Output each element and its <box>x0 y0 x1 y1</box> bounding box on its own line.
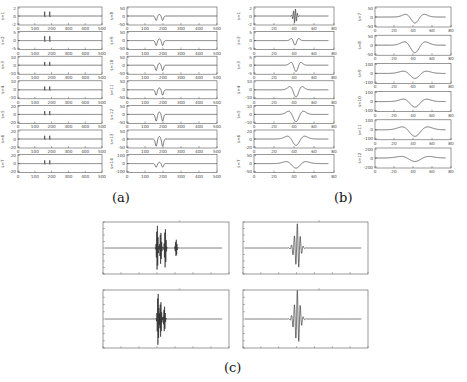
svg-text:0: 0 <box>249 87 252 92</box>
svg-text:100: 100 <box>31 149 39 154</box>
svg-text:0: 0 <box>370 15 373 20</box>
svg-text:200: 200 <box>159 100 167 105</box>
svg-text:5: 5 <box>249 55 252 60</box>
svg-text:0: 0 <box>17 174 20 179</box>
svg-text:100: 100 <box>141 26 149 31</box>
svg-text:100: 100 <box>31 75 39 80</box>
svg-text:0: 0 <box>253 174 256 179</box>
svg-text:40: 40 <box>291 174 297 179</box>
svg-text:0: 0 <box>370 99 373 104</box>
svg-text:s=9: s=9 <box>109 36 114 45</box>
svg-text:300: 300 <box>177 75 185 80</box>
svg-text:400: 400 <box>81 51 89 56</box>
svg-text:500: 500 <box>213 26 221 31</box>
svg-text:40: 40 <box>410 56 416 61</box>
svg-text:20: 20 <box>271 124 277 129</box>
svg-text:40: 40 <box>291 149 297 154</box>
subplot-s-7: 500-50s=7020406080 <box>236 153 337 178</box>
svg-text:-5: -5 <box>12 46 17 51</box>
svg-text:s=3: s=3 <box>236 61 241 70</box>
svg-text:-50: -50 <box>118 120 125 125</box>
svg-text:0: 0 <box>249 14 252 19</box>
svg-text:-50: -50 <box>366 52 373 57</box>
subplot-s-11: 1000-100s=11020406080 <box>357 118 454 145</box>
subplot-s-7: 200-20s=70100200300400500 <box>0 153 106 178</box>
svg-text:20: 20 <box>11 153 17 158</box>
svg-text:-100: -100 <box>115 169 125 174</box>
svg-text:20: 20 <box>391 169 397 174</box>
svg-text:20: 20 <box>391 113 397 118</box>
svg-text:s=3: s=3 <box>0 61 5 70</box>
svg-text:0: 0 <box>122 87 125 92</box>
svg-text:0: 0 <box>13 87 16 92</box>
svg-text:200: 200 <box>48 26 56 31</box>
svg-text:100: 100 <box>365 62 373 67</box>
subplot-s-6: 200-20s=60100200300400500 <box>0 129 106 154</box>
svg-text:400: 400 <box>81 75 89 80</box>
svg-text:0: 0 <box>249 38 252 43</box>
svg-text:500: 500 <box>98 75 106 80</box>
svg-text:300: 300 <box>64 100 72 105</box>
svg-text:60: 60 <box>311 174 317 179</box>
svg-text:300: 300 <box>177 51 185 56</box>
svg-text:s=6: s=6 <box>0 134 5 143</box>
svg-text:0: 0 <box>249 63 252 68</box>
svg-text:400: 400 <box>195 149 203 154</box>
svg-text:200: 200 <box>159 174 167 179</box>
svg-text:40: 40 <box>410 169 416 174</box>
svg-text:100: 100 <box>141 75 149 80</box>
svg-text:0: 0 <box>122 14 125 19</box>
svg-text:80: 80 <box>448 113 454 118</box>
svg-text:300: 300 <box>64 75 72 80</box>
svg-text:0: 0 <box>122 112 125 117</box>
svg-text:50: 50 <box>120 30 126 35</box>
svg-text:50: 50 <box>120 79 126 84</box>
svg-text:400: 400 <box>195 26 203 31</box>
svg-text:100: 100 <box>365 118 373 123</box>
svg-text:0: 0 <box>13 38 16 43</box>
svg-text:40: 40 <box>410 141 416 146</box>
svg-text:0: 0 <box>253 51 256 56</box>
svg-text:500: 500 <box>98 100 106 105</box>
svg-text:300: 300 <box>177 124 185 129</box>
svg-text:10: 10 <box>11 79 17 84</box>
svg-text:400: 400 <box>81 26 89 31</box>
svg-text:s=8: s=8 <box>109 11 114 20</box>
svg-text:200: 200 <box>48 51 56 56</box>
svg-text:20: 20 <box>391 141 397 146</box>
svg-text:200: 200 <box>159 26 167 31</box>
svg-text:500: 500 <box>98 124 106 129</box>
svg-text:100: 100 <box>31 174 39 179</box>
svg-text:s=7: s=7 <box>236 159 241 168</box>
svg-text:50: 50 <box>368 34 374 39</box>
svg-text:400: 400 <box>195 75 203 80</box>
svg-text:0: 0 <box>13 137 16 142</box>
svg-text:0: 0 <box>253 75 256 80</box>
subplot-s-5: 200-20s=50100200300400500 <box>0 104 106 129</box>
svg-text:200: 200 <box>48 174 56 179</box>
svg-text:0: 0 <box>370 71 373 76</box>
svg-text:-5: -5 <box>248 46 253 51</box>
svg-text:0: 0 <box>253 100 256 105</box>
svg-text:0: 0 <box>249 161 252 166</box>
svg-text:80: 80 <box>331 75 337 80</box>
svg-text:80: 80 <box>331 174 337 179</box>
svg-text:s=7: s=7 <box>357 12 362 21</box>
svg-text:200: 200 <box>48 75 56 80</box>
svg-text:20: 20 <box>271 149 277 154</box>
svg-text:300: 300 <box>177 174 185 179</box>
svg-text:500: 500 <box>213 75 221 80</box>
svg-text:400: 400 <box>81 124 89 129</box>
svg-text:60: 60 <box>311 75 317 80</box>
svg-text:500: 500 <box>213 174 221 179</box>
svg-text:0: 0 <box>122 38 125 43</box>
caption-b: (b) <box>334 190 352 205</box>
svg-text:300: 300 <box>177 100 185 105</box>
svg-text:500: 500 <box>213 149 221 154</box>
svg-text:-10: -10 <box>245 95 252 100</box>
svg-text:100: 100 <box>141 174 149 179</box>
svg-text:0: 0 <box>126 51 129 56</box>
svg-text:60: 60 <box>429 141 435 146</box>
svg-text:-10: -10 <box>245 120 252 125</box>
subplot-s-8: 500-50s=8020406080 <box>357 34 454 61</box>
